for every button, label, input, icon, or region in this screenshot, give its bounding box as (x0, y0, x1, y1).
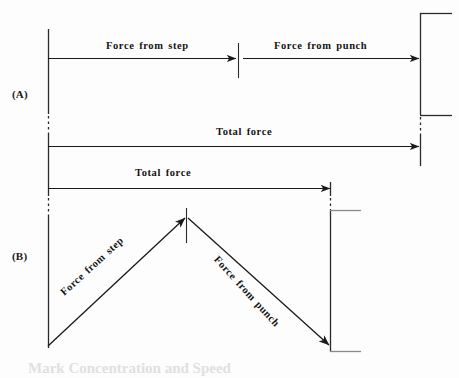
panel-b-force-from-punch-arrow (188, 218, 329, 345)
panel-a-total-force-label: Total force (216, 126, 272, 137)
force-diagram (0, 0, 459, 378)
panel-a-force-from-punch-label: Force from punch (274, 40, 367, 51)
panel-b-label: (B) (12, 250, 27, 262)
panel-b-total-force-label: Total force (135, 167, 191, 178)
panel-a-label: (A) (12, 88, 28, 100)
panel-a-force-from-step-label: Force from step (106, 40, 189, 51)
figure-caption-partial: Mark Concentration and Speed (28, 360, 231, 377)
